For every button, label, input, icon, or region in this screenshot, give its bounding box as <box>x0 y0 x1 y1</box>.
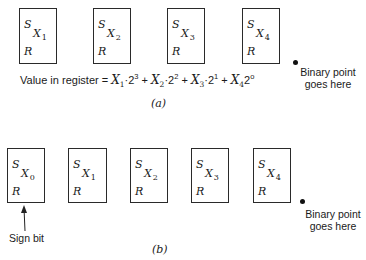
register-b-0: S X0 R <box>7 148 45 203</box>
binary-point-dot <box>300 199 305 204</box>
register-a-1: S X1 R <box>19 8 57 64</box>
reset-label: R <box>24 46 32 57</box>
binary-point-label: Binary point goes here <box>300 66 356 90</box>
register-b-1: S X1 R <box>68 148 107 203</box>
reset-label: R <box>247 46 255 57</box>
bit-label: X4 <box>256 28 270 39</box>
sign-bit-label: Sign bit <box>9 232 44 244</box>
register-a-2: S X2 R <box>93 8 131 64</box>
reset-label: R <box>12 186 20 197</box>
bit-label: X0 <box>21 168 35 179</box>
caption-b: (b) <box>152 243 168 256</box>
bit-label: X3 <box>181 28 195 39</box>
value-equation: Value in register = X1·23 + X2·22 + X3·2… <box>20 72 254 87</box>
register-b-4: S X4 R <box>253 148 291 203</box>
register-a-3: S X3 R <box>167 8 205 64</box>
bit-label: X2 <box>107 28 121 39</box>
register-a-4: S X4 R <box>242 8 280 64</box>
caption-a: (a) <box>151 97 166 110</box>
set-label: S <box>98 19 106 30</box>
set-label: S <box>196 159 204 170</box>
reset-label: R <box>135 186 143 197</box>
reset-label: R <box>98 46 106 57</box>
set-label: S <box>73 159 81 170</box>
bit-label: X2 <box>144 168 158 179</box>
set-label: S <box>247 19 255 30</box>
reset-label: R <box>73 186 81 197</box>
reset-label: R <box>258 186 266 197</box>
bit-label: X1 <box>82 168 96 179</box>
reset-label: R <box>172 46 180 57</box>
bit-label: X1 <box>33 28 47 39</box>
reset-label: R <box>196 186 204 197</box>
register-b-2: S X2 R <box>130 148 168 203</box>
set-label: S <box>24 19 32 30</box>
register-b-3: S X3 R <box>191 148 229 203</box>
set-label: S <box>135 159 143 170</box>
set-label: S <box>12 159 20 170</box>
binary-point-label: Binary point goes here <box>304 208 362 232</box>
binary-point-dot <box>293 60 298 65</box>
set-label: S <box>172 19 180 30</box>
bit-label: X3 <box>205 168 219 179</box>
arrow-up-icon <box>18 204 30 232</box>
bit-label: X4 <box>267 168 281 179</box>
set-label: S <box>258 159 266 170</box>
